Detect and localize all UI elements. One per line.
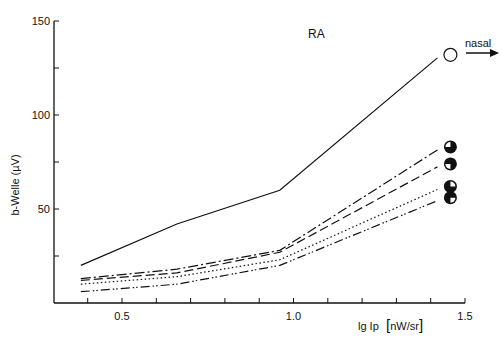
x-axis-label-main: lg Ip [358, 320, 379, 332]
open-circle-marker [444, 48, 457, 61]
y-tick-label: 100 [32, 109, 50, 121]
chart-plot: 501001500.51.01.5 [0, 0, 502, 351]
y-axis-label: b-Welle (µV) [0, 135, 30, 235]
x-tick-label: 1.0 [286, 310, 301, 322]
y-tick-label: 50 [38, 203, 50, 215]
x-axis-label: lg Ip [nW/sr] [358, 316, 423, 333]
y-tick-label: 150 [32, 15, 50, 27]
nasal-annotation: nasal [465, 37, 491, 49]
x-tick-label: 0.5 [114, 310, 129, 322]
series-line [81, 58, 438, 266]
series-line [81, 150, 438, 279]
series-line [81, 189, 438, 284]
nasal-arrowhead-icon [490, 49, 499, 57]
series-line [81, 201, 438, 292]
chart-title: RA [308, 27, 325, 41]
x-axis-label-unit: nW/sr [390, 320, 419, 332]
x-tick-label: 1.5 [457, 310, 472, 322]
